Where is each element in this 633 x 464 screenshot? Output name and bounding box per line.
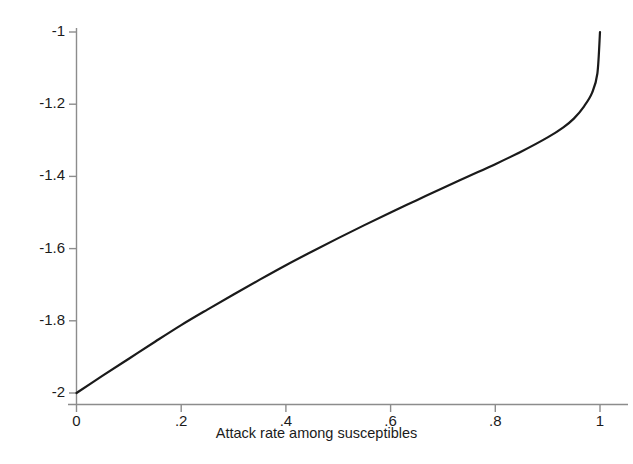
y-tick-label: -1.6 xyxy=(39,239,65,256)
plot-canvas xyxy=(0,0,633,464)
y-tick-label: -1.4 xyxy=(39,166,65,183)
chart-figure: -1-1.2-1.4-1.6-1.8-2 0.2.4.6.81 Attack r… xyxy=(0,0,633,464)
data-series-line xyxy=(77,32,601,393)
x-axis-title: Attack rate among susceptibles xyxy=(0,425,633,441)
y-tick-label: -1.8 xyxy=(39,311,65,328)
x-tick-marks xyxy=(77,405,601,412)
y-tick-label: -2 xyxy=(52,383,65,400)
y-tick-label: -1.2 xyxy=(39,94,65,111)
y-tick-marks xyxy=(69,32,77,393)
y-tick-label: -1 xyxy=(52,22,65,39)
